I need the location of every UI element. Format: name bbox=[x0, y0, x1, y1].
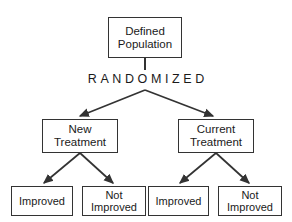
connector-current-treatment-to-not-improved bbox=[216, 153, 249, 183]
node-defined-population: Defined Population bbox=[108, 17, 182, 58]
connector-randomized-to-new-treatment bbox=[80, 90, 145, 116]
connector-randomized-to-current-treatment bbox=[145, 90, 213, 116]
node-new-treatment: New Treatment bbox=[42, 119, 118, 153]
node-new-treatment-improved: Improved bbox=[11, 186, 73, 216]
connector-new-treatment-to-improved bbox=[44, 153, 80, 183]
node-new-treatment-not-improved-label: Not Improved bbox=[91, 189, 137, 214]
node-current-treatment: Current Treatment bbox=[178, 119, 254, 153]
node-defined-population-label: Defined Population bbox=[118, 25, 172, 51]
node-current-treatment-label: Current Treatment bbox=[190, 123, 242, 149]
node-current-treatment-improved-label: Improved bbox=[156, 195, 202, 207]
node-current-treatment-not-improved-label: Not Improved bbox=[227, 189, 273, 214]
trial-flow-diagram: Defined Population RANDOMIZED New Treatm… bbox=[0, 0, 292, 222]
node-new-treatment-not-improved: Not Improved bbox=[82, 186, 146, 216]
node-new-treatment-improved-label: Improved bbox=[19, 195, 65, 207]
connector-current-treatment-to-improved bbox=[180, 153, 216, 183]
node-current-treatment-improved: Improved bbox=[148, 186, 209, 216]
node-new-treatment-label: New Treatment bbox=[54, 123, 106, 149]
connector-new-treatment-to-not-improved bbox=[80, 153, 113, 183]
randomized-label: RANDOMIZED bbox=[0, 72, 292, 86]
node-current-treatment-not-improved: Not Improved bbox=[218, 186, 282, 216]
